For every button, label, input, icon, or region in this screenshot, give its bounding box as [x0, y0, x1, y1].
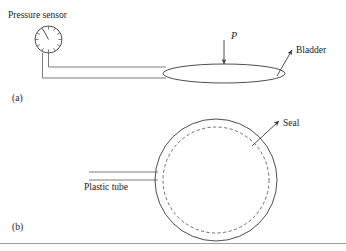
gauge-tick: [57, 44, 60, 46]
panel-tag-b: (b): [12, 222, 23, 233]
seal-dashed-circle: [163, 127, 269, 233]
gauge-needle: [43, 30, 48, 40]
gauge-tick: [53, 48, 55, 51]
panel-tag-a: (a): [12, 93, 23, 104]
connecting-tube: [43, 53, 167, 78]
bladder-label: Bladder: [296, 45, 327, 55]
bladder-shape: [163, 64, 285, 83]
tube-outer-wall: [43, 53, 167, 78]
figure-container: Pressure sensor P Bladder (a) Plastic tu…: [0, 0, 346, 251]
plastic-tube: [89, 172, 158, 180]
panel-a: Pressure sensor P Bladder (a): [8, 10, 327, 104]
diagram-canvas: Pressure sensor P Bladder (a) Plastic tu…: [0, 0, 346, 251]
gauge-tick: [42, 48, 44, 51]
pressure-sensor-label: Pressure sensor: [8, 10, 68, 20]
pressure-gauge: [35, 26, 62, 53]
panel-b: Plastic tube Seal (b): [12, 118, 300, 241]
gauge-tick: [37, 33, 40, 35]
tube-inner-wall: [49, 53, 167, 67]
seal-label: Seal: [283, 118, 300, 128]
plastic-tube-label: Plastic tube: [84, 182, 128, 192]
gauge-tick: [53, 28, 55, 31]
gauge-tick: [57, 33, 60, 35]
gauge-tick: [37, 45, 40, 47]
pressure-symbol-label: P: [230, 30, 237, 41]
bladder-outer-circle: [155, 119, 277, 241]
